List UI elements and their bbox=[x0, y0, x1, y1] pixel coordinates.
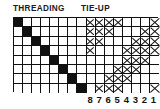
grid-cell-x[interactable] bbox=[96, 27, 105, 36]
grid-cell-x[interactable] bbox=[96, 18, 105, 27]
grid-cell[interactable] bbox=[14, 46, 23, 55]
grid-cell[interactable] bbox=[141, 84, 150, 93]
grid-cell-x[interactable] bbox=[123, 74, 132, 83]
grid-cell[interactable] bbox=[68, 84, 77, 93]
grid-cell[interactable] bbox=[105, 46, 114, 55]
grid-cell[interactable] bbox=[59, 46, 68, 55]
grid-cell-x[interactable] bbox=[141, 56, 150, 65]
grid-cell[interactable] bbox=[114, 27, 123, 36]
grid-cell[interactable] bbox=[96, 46, 105, 55]
grid-cell[interactable] bbox=[68, 18, 77, 27]
grid-cell[interactable] bbox=[150, 56, 159, 65]
grid-cell[interactable] bbox=[68, 27, 77, 36]
grid-cell-x[interactable] bbox=[96, 84, 105, 93]
grid-cell[interactable] bbox=[59, 37, 68, 46]
grid-cell[interactable] bbox=[23, 84, 32, 93]
grid-cell[interactable] bbox=[32, 56, 41, 65]
grid-cell[interactable] bbox=[23, 46, 32, 55]
grid-cell[interactable] bbox=[32, 18, 41, 27]
grid-cell[interactable] bbox=[50, 65, 59, 74]
grid-cell[interactable] bbox=[114, 37, 123, 46]
grid-cell[interactable] bbox=[96, 56, 105, 65]
grid-cell-x[interactable] bbox=[150, 27, 159, 36]
grid-cell[interactable] bbox=[23, 74, 32, 83]
grid-cell[interactable] bbox=[132, 18, 141, 27]
grid-cell[interactable] bbox=[14, 65, 23, 74]
grid-cell[interactable] bbox=[68, 65, 77, 74]
grid-cell[interactable] bbox=[50, 74, 59, 83]
grid-cell[interactable] bbox=[123, 18, 132, 27]
grid-cell[interactable] bbox=[32, 65, 41, 74]
grid-cell[interactable] bbox=[96, 65, 105, 74]
grid-cell-x[interactable] bbox=[87, 46, 96, 55]
grid-cell[interactable] bbox=[41, 74, 50, 83]
grid-cell[interactable] bbox=[150, 74, 159, 83]
grid-cell[interactable] bbox=[123, 84, 132, 93]
grid-cell[interactable] bbox=[59, 27, 68, 36]
grid-cell-filled[interactable] bbox=[14, 18, 23, 27]
grid-cell[interactable] bbox=[68, 46, 77, 55]
grid-cell[interactable] bbox=[32, 84, 41, 93]
grid-cell-x[interactable] bbox=[150, 18, 159, 27]
grid-cell-x[interactable] bbox=[105, 18, 114, 27]
grid-cell-filled[interactable] bbox=[50, 56, 59, 65]
grid-cell[interactable] bbox=[14, 27, 23, 36]
grid-cell[interactable] bbox=[141, 65, 150, 74]
grid-cell-x[interactable] bbox=[114, 84, 123, 93]
grid-cell[interactable] bbox=[105, 37, 114, 46]
grid-cell-x[interactable] bbox=[123, 46, 132, 55]
grid-cell-x[interactable] bbox=[114, 65, 123, 74]
grid-cell[interactable] bbox=[32, 74, 41, 83]
grid-cell[interactable] bbox=[87, 56, 96, 65]
grid-cell-x[interactable] bbox=[141, 37, 150, 46]
grid-cell-x[interactable] bbox=[114, 74, 123, 83]
grid-cell[interactable] bbox=[96, 74, 105, 83]
grid-cell-x[interactable] bbox=[105, 84, 114, 93]
grid-cell[interactable] bbox=[141, 74, 150, 83]
grid-cell[interactable] bbox=[14, 74, 23, 83]
grid-cell[interactable] bbox=[50, 27, 59, 36]
grid-cell[interactable] bbox=[87, 74, 96, 83]
grid-cell[interactable] bbox=[50, 18, 59, 27]
grid-cell[interactable] bbox=[50, 84, 59, 93]
grid-cell[interactable] bbox=[105, 56, 114, 65]
grid-cell[interactable] bbox=[68, 37, 77, 46]
grid-cell-x[interactable] bbox=[132, 65, 141, 74]
grid-cell[interactable] bbox=[59, 56, 68, 65]
grid-cell[interactable] bbox=[23, 56, 32, 65]
grid-cell-x[interactable] bbox=[132, 56, 141, 65]
grid-cell[interactable] bbox=[114, 46, 123, 55]
grid-cell-x[interactable] bbox=[123, 65, 132, 74]
grid-cell[interactable] bbox=[41, 65, 50, 74]
grid-cell[interactable] bbox=[87, 65, 96, 74]
grid-cell-filled[interactable] bbox=[23, 27, 32, 36]
grid-cell[interactable] bbox=[105, 65, 114, 74]
grid-cell[interactable] bbox=[77, 65, 86, 74]
grid-cell[interactable] bbox=[59, 84, 68, 93]
grid-cell[interactable] bbox=[50, 37, 59, 46]
grid-cell-filled[interactable] bbox=[32, 37, 41, 46]
grid-cell[interactable] bbox=[50, 46, 59, 55]
grid-cell-x[interactable] bbox=[114, 18, 123, 27]
grid-cell[interactable] bbox=[77, 56, 86, 65]
grid-cell[interactable] bbox=[32, 46, 41, 55]
grid-cell[interactable] bbox=[41, 18, 50, 27]
grid-cell[interactable] bbox=[114, 56, 123, 65]
grid-cell-filled[interactable] bbox=[59, 65, 68, 74]
grid-cell[interactable] bbox=[23, 37, 32, 46]
grid-cell[interactable] bbox=[41, 37, 50, 46]
grid-cell[interactable] bbox=[23, 18, 32, 27]
grid-cell[interactable] bbox=[132, 27, 141, 36]
grid-cell[interactable] bbox=[32, 27, 41, 36]
grid-cell[interactable] bbox=[132, 74, 141, 83]
grid-cell[interactable] bbox=[141, 18, 150, 27]
grid-cell-x[interactable] bbox=[105, 27, 114, 36]
grid-cell-x[interactable] bbox=[150, 46, 159, 55]
grid-cell-x[interactable] bbox=[141, 46, 150, 55]
grid-cell[interactable] bbox=[150, 65, 159, 74]
grid-cell-x[interactable] bbox=[132, 46, 141, 55]
grid-cell-x[interactable] bbox=[150, 84, 159, 93]
grid-cell-x[interactable] bbox=[141, 27, 150, 36]
grid-cell[interactable] bbox=[14, 56, 23, 65]
grid-cell-x[interactable] bbox=[96, 37, 105, 46]
